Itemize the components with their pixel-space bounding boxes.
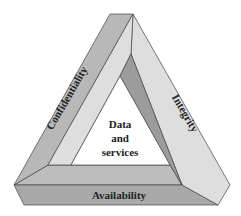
cia-triad-diagram: Confidentiality Integrity Availability D… (0, 0, 241, 216)
center-label-line-2: and (111, 132, 129, 144)
availability-label: Availability (92, 189, 147, 201)
center-label-line-3: services (102, 146, 139, 158)
center-label-line-1: Data (109, 118, 132, 130)
